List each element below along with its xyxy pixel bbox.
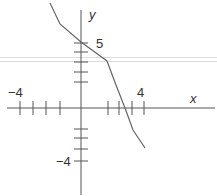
y-tick-label-5: 5 <box>96 37 103 50</box>
y-tick-label-neg4: −4 <box>56 155 71 168</box>
x-tick-label-neg4: −4 <box>8 86 23 99</box>
graph-canvas <box>0 0 217 196</box>
x-tick-label-4: 4 <box>137 86 144 99</box>
y-axis-label: y <box>89 8 96 21</box>
x-axis-label: x <box>190 92 197 105</box>
function-curve <box>50 3 145 148</box>
